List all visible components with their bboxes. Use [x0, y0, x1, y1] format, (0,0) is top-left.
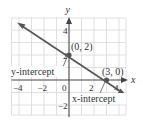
y-axis-label: y: [65, 4, 71, 15]
x-axis-arrow-icon: [121, 77, 128, 83]
x-tick-label: 0: [62, 83, 67, 93]
line-series: [17, 23, 126, 96]
graph-chart: x y −4 −2 0 2 4 4 2 −2 (0, 2) (3, 0) y-i…: [0, 0, 143, 121]
x-tick-label: −4: [13, 83, 23, 93]
point-label-y-intercept: (0, 2): [71, 41, 93, 53]
y-tick-label: 4: [63, 26, 68, 36]
x-tick-label: −2: [38, 83, 48, 93]
x-axis-label: x: [130, 74, 136, 85]
y-tick-label: −2: [58, 101, 68, 111]
y-intercept-annotation: y-intercept: [11, 66, 55, 77]
point-label-x-intercept: (3, 0): [102, 66, 124, 78]
point-x-intercept: [104, 77, 109, 82]
point-y-intercept: [66, 52, 71, 57]
x-intercept-leader: [100, 82, 105, 93]
x-intercept-annotation: x-intercept: [72, 93, 116, 104]
x-tick-label: 2: [89, 83, 94, 93]
